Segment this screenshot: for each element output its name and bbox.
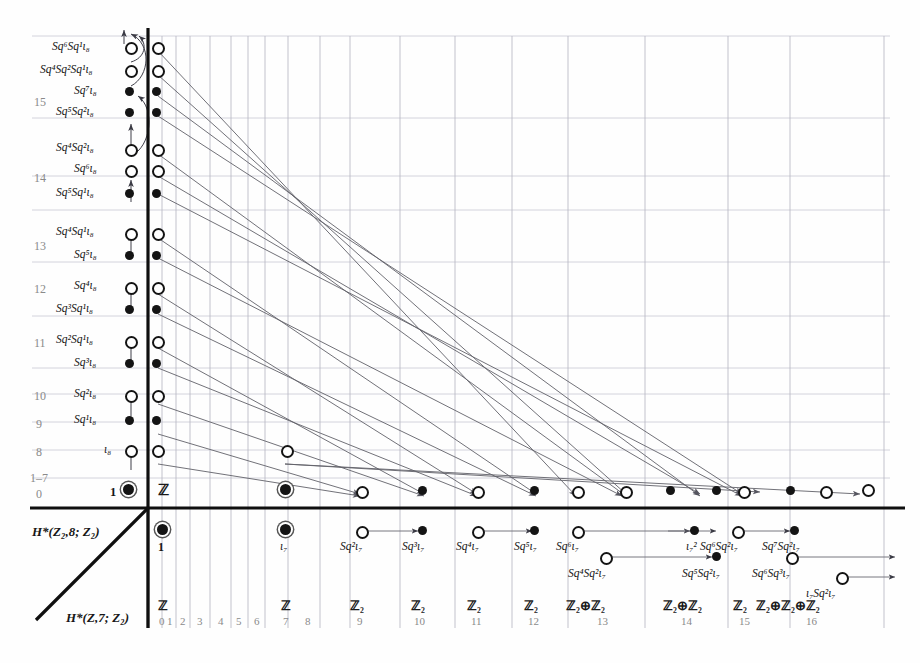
row0-dot-10 [418, 486, 427, 495]
xgroup-15: ℤ₂ [733, 598, 747, 614]
fiber-label-sq2sq1: Sq²Sq¹ι₈ [56, 334, 93, 346]
chart-canvas [0, 0, 920, 663]
xgroup-14: ℤ₂⊕ℤ₂ [663, 598, 702, 614]
fiber-dot-13a [125, 228, 138, 241]
base-dot-14b [712, 552, 721, 561]
y-tick-9: 9 [36, 418, 42, 430]
base-label-sq2i7: Sq²ι₇ [340, 541, 362, 553]
col7-dot-14b [152, 165, 165, 178]
fiber-dot-12b [125, 305, 134, 314]
row0-left-one: 1 [110, 486, 116, 499]
base-label-sq4sq2i7: Sq⁴Sq²ι₇ [568, 568, 606, 580]
y-tick-14: 14 [34, 172, 46, 184]
x-tick-1: 1 [167, 616, 173, 627]
fiber-dot-10 [125, 390, 138, 403]
fiber-label-sq6sq1: Sq⁶Sq¹ι₈ [52, 41, 90, 53]
y-tick-0: 0 [36, 488, 42, 500]
base-label-iota7: ι₇ [280, 541, 287, 553]
x-tick-3: 3 [197, 616, 203, 627]
fiber-dot-14b [125, 165, 138, 178]
y-tick-1-7: 1–7 [30, 472, 48, 484]
xgroup-12: ℤ₂ [524, 598, 538, 614]
base-dot-15 [732, 526, 745, 539]
fiber-dot-14a [125, 144, 138, 157]
fiber-dot-8 [125, 445, 138, 458]
base-label-1: 1 [158, 541, 164, 553]
base-dot-7 [280, 524, 291, 535]
y-tick-10: 10 [34, 390, 46, 402]
fiber-label-iota8: ι₈ [104, 444, 111, 456]
base-dot-17 [836, 572, 849, 585]
col7-dot-9 [152, 416, 161, 425]
fiber-dot-12a [125, 282, 138, 295]
xgroup-9: ℤ₂ [350, 598, 364, 614]
xgroup-10: ℤ₂ [411, 598, 425, 614]
x-tick-11: 11 [471, 616, 482, 627]
row0-dot-14a [666, 486, 675, 495]
origin-cell-Z: ℤ [158, 481, 169, 499]
y-tick-15: 15 [34, 96, 46, 108]
base-dot-16 [790, 526, 799, 535]
xgroup-16: ℤ₂⊕ℤ₂⊕ℤ₂ [756, 598, 820, 614]
base-label-sq5sq2i7: Sq⁵Sq²ι₇ [682, 568, 720, 580]
fiber-label-sq4sq1: Sq⁴Sq¹ι₈ [56, 226, 94, 238]
base-label-sq6sq2i7: Sq⁶Sq²ι₇ [700, 541, 738, 553]
col7-dot-16b [152, 65, 165, 78]
bottom-row-arrows [366, 531, 895, 577]
fiber-dot-15b [125, 108, 134, 117]
base-dot-14 [690, 526, 699, 535]
col7-dot-11a [152, 336, 165, 349]
fiber-label-sq4sq2: Sq⁴Sq²ι₈ [56, 142, 94, 154]
col7-dot-14c [152, 189, 161, 198]
x-tick-13: 13 [597, 616, 608, 627]
x-tick-10: 10 [414, 616, 425, 627]
base-label-sq6i7: Sq⁶ι₇ [556, 541, 579, 553]
row0-dot-16b [820, 486, 833, 499]
base-label-iota7sq: ι₇² [686, 541, 697, 553]
fiber-column-arrows [124, 30, 131, 470]
fiber-label-sq5: Sq⁵ι₈ [74, 249, 97, 261]
fiber-dot-16a [125, 42, 138, 55]
base-label-sq3i7: Sq³ι₇ [402, 541, 424, 553]
x-tick-9: 9 [357, 616, 363, 627]
x-tick-2: 2 [180, 616, 186, 627]
row0-dot-16a [786, 486, 795, 495]
fiber-axis-title: H*(Z₂,8; Z₂) [32, 525, 100, 538]
row0-dot-14b [712, 486, 721, 495]
col7-dot-12a [152, 282, 165, 295]
xgroup-13: ℤ₂⊕ℤ₂ [566, 598, 605, 614]
fiber-label-sq2: Sq²ι₈ [74, 388, 96, 400]
fiber-label-sq6: Sq⁶ι₈ [74, 163, 97, 175]
x-tick-14: 14 [681, 616, 692, 627]
row0-dot-17 [862, 484, 875, 497]
fiber-label-sq4sq2sq1: Sq⁴Sq²Sq¹ι₈ [40, 64, 93, 76]
fiber-dot-15a [125, 87, 134, 96]
xgroup-11: ℤ₂ [467, 598, 481, 614]
y-tick-8: 8 [36, 446, 42, 458]
base-dot-11 [472, 526, 485, 539]
spectral-sequence-figure: 15 14 13 12 11 10 9 8 1–7 0 Sq⁶Sq¹ι₈ Sq⁴… [0, 0, 920, 663]
x-tick-4: 4 [218, 616, 224, 627]
base-axis-title: H*(Z,7; Z₂) [66, 611, 129, 624]
fiber-dot-16b [125, 65, 138, 78]
row0-dot-12 [530, 486, 539, 495]
fiber-label-sq5sq1: Sq⁵Sq¹ι₈ [56, 187, 94, 199]
row0-dot-15 [738, 486, 751, 499]
col7-dot-13b [152, 251, 161, 260]
row0-dot-13a [572, 486, 585, 499]
fiber-dot-13b [125, 251, 134, 260]
x-tick-8: 8 [305, 616, 311, 627]
fiber-dot-9 [125, 416, 134, 425]
base-dot-9 [356, 526, 369, 539]
row0-dot-7 [280, 484, 291, 495]
x-tick-15: 15 [739, 616, 750, 627]
fiber-label-sq3: Sq³ι₈ [74, 357, 96, 369]
x-tick-16: 16 [806, 616, 817, 627]
row0-dot-11 [472, 486, 485, 499]
x-tick-6: 6 [254, 616, 260, 627]
fiber-label-sq1: Sq¹ι₈ [74, 414, 96, 426]
y-tick-12: 12 [34, 283, 46, 295]
fiber-label-sq7: Sq⁷ι₈ [74, 85, 97, 97]
y-tick-11: 11 [34, 337, 46, 349]
row0-dot-9 [356, 486, 369, 499]
